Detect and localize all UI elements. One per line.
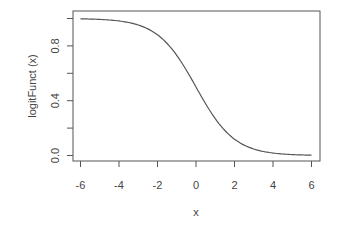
x-axis-label: x	[193, 206, 199, 218]
logit-curve	[81, 19, 312, 155]
logit-chart: 0.00.40.8 -6-4-20246 x logitFunct (x)	[0, 0, 341, 230]
y-tick-label: 0.4	[49, 93, 61, 108]
y-tick-label: 0.8	[49, 38, 61, 53]
x-tick-label: 0	[193, 179, 199, 191]
y-tick-label: 0.0	[49, 148, 61, 163]
x-tick-label: -6	[76, 179, 86, 191]
x-tick-label: 4	[270, 179, 276, 191]
y-axis-label: logitFunct (x)	[26, 54, 38, 118]
y-axis: 0.00.40.8	[49, 19, 73, 164]
x-tick-label: -4	[114, 179, 124, 191]
x-tick-label: 2	[231, 179, 237, 191]
x-tick-label: 6	[308, 179, 314, 191]
x-axis: -6-4-20246	[76, 161, 315, 191]
plot-frame	[73, 11, 320, 161]
x-tick-label: -2	[153, 179, 163, 191]
